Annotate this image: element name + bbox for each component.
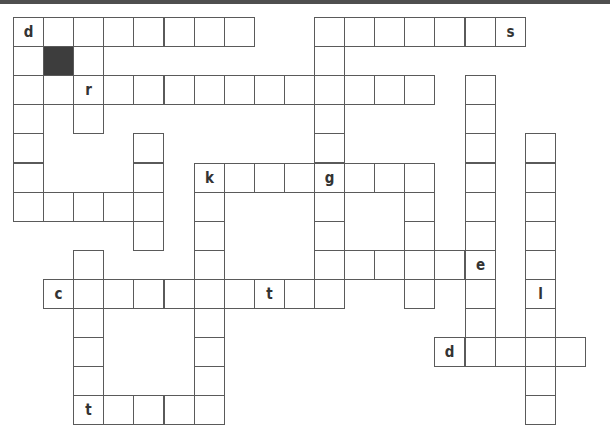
crossword-cell[interactable]	[465, 279, 496, 309]
crossword-cell[interactable]	[133, 221, 164, 251]
crossword-cell[interactable]	[73, 279, 104, 309]
crossword-cell[interactable]	[13, 192, 44, 222]
crossword-cell[interactable]	[374, 75, 405, 105]
crossword-cell[interactable]: l	[525, 279, 556, 309]
crossword-cell[interactable]	[13, 163, 44, 193]
crossword-cell[interactable]	[73, 17, 104, 47]
crossword-cell[interactable]	[164, 75, 195, 105]
crossword-cell[interactable]	[43, 17, 74, 47]
crossword-cell[interactable]	[314, 221, 345, 251]
crossword-cell[interactable]	[73, 337, 104, 367]
crossword-cell[interactable]	[164, 17, 195, 47]
crossword-cell[interactable]	[314, 104, 345, 134]
crossword-cell[interactable]: c	[43, 279, 74, 309]
crossword-cell[interactable]	[43, 192, 74, 222]
crossword-cell[interactable]	[465, 104, 496, 134]
crossword-cell[interactable]	[314, 250, 345, 280]
crossword-cell[interactable]	[73, 308, 104, 338]
crossword-cell[interactable]	[103, 75, 134, 105]
crossword-cell[interactable]	[404, 279, 435, 309]
crossword-cell[interactable]	[404, 250, 435, 280]
crossword-cell[interactable]	[224, 163, 255, 193]
crossword-cell[interactable]	[13, 104, 44, 134]
crossword-cell[interactable]	[194, 308, 225, 338]
crossword-cell[interactable]	[525, 221, 556, 251]
crossword-cell[interactable]	[525, 250, 556, 280]
crossword-cell[interactable]	[194, 221, 225, 251]
crossword-cell[interactable]	[344, 17, 375, 47]
crossword-cell[interactable]	[314, 75, 345, 105]
crossword-cell[interactable]	[254, 75, 285, 105]
crossword-cell[interactable]	[194, 192, 225, 222]
crossword-cell[interactable]	[465, 308, 496, 338]
crossword-cell[interactable]: k	[194, 163, 225, 193]
crossword-cell[interactable]: r	[73, 75, 104, 105]
crossword-cell[interactable]	[374, 163, 405, 193]
crossword-cell[interactable]: d	[13, 17, 44, 47]
crossword-cell[interactable]	[284, 279, 315, 309]
crossword-cell[interactable]	[103, 192, 134, 222]
crossword-cell[interactable]	[525, 163, 556, 193]
crossword-cell[interactable]	[73, 250, 104, 280]
crossword-cell[interactable]	[13, 133, 44, 163]
crossword-cell[interactable]	[404, 221, 435, 251]
crossword-cell[interactable]	[73, 104, 104, 134]
crossword-cell[interactable]	[344, 163, 375, 193]
crossword-cell[interactable]	[465, 75, 496, 105]
crossword-cell[interactable]	[314, 46, 345, 76]
crossword-cell[interactable]	[224, 75, 255, 105]
crossword-cell[interactable]	[194, 279, 225, 309]
crossword-cell[interactable]	[465, 163, 496, 193]
crossword-cell[interactable]	[465, 17, 496, 47]
crossword-cell[interactable]	[133, 192, 164, 222]
crossword-cell[interactable]	[133, 279, 164, 309]
crossword-cell[interactable]	[525, 308, 556, 338]
crossword-cell[interactable]	[194, 17, 225, 47]
crossword-cell[interactable]	[465, 192, 496, 222]
crossword-cell[interactable]: d	[434, 337, 465, 367]
crossword-cell[interactable]	[194, 75, 225, 105]
crossword-cell[interactable]	[103, 279, 134, 309]
crossword-cell[interactable]	[133, 17, 164, 47]
crossword-cell[interactable]	[525, 366, 556, 396]
crossword-cell[interactable]	[404, 75, 435, 105]
crossword-cell[interactable]	[314, 17, 345, 47]
crossword-cell[interactable]	[465, 337, 496, 367]
crossword-cell[interactable]	[73, 366, 104, 396]
crossword-cell[interactable]	[284, 163, 315, 193]
crossword-cell[interactable]	[495, 337, 526, 367]
crossword-cell[interactable]	[374, 250, 405, 280]
crossword-cell[interactable]	[525, 192, 556, 222]
crossword-cell[interactable]	[43, 75, 74, 105]
crossword-cell[interactable]	[434, 17, 465, 47]
crossword-cell[interactable]	[314, 279, 345, 309]
crossword-cell[interactable]	[344, 250, 375, 280]
crossword-cell[interactable]	[374, 17, 405, 47]
crossword-cell[interactable]	[314, 133, 345, 163]
crossword-cell[interactable]	[13, 75, 44, 105]
crossword-cell[interactable]: s	[495, 17, 526, 47]
crossword-cell[interactable]	[404, 192, 435, 222]
crossword-cell[interactable]	[194, 337, 225, 367]
crossword-cell[interactable]	[103, 395, 134, 425]
crossword-cell[interactable]	[194, 366, 225, 396]
crossword-cell[interactable]	[525, 337, 556, 367]
crossword-cell[interactable]	[133, 75, 164, 105]
crossword-cell[interactable]	[224, 279, 255, 309]
crossword-cell[interactable]	[465, 133, 496, 163]
crossword-cell[interactable]	[525, 133, 556, 163]
crossword-cell[interactable]	[404, 163, 435, 193]
crossword-cell[interactable]: g	[314, 163, 345, 193]
crossword-cell[interactable]	[284, 75, 315, 105]
crossword-cell[interactable]	[133, 395, 164, 425]
crossword-cell[interactable]	[164, 395, 195, 425]
crossword-cell[interactable]	[555, 337, 586, 367]
crossword-cell[interactable]	[224, 17, 255, 47]
crossword-cell[interactable]	[194, 395, 225, 425]
crossword-cell[interactable]: t	[254, 279, 285, 309]
crossword-cell[interactable]	[254, 163, 285, 193]
crossword-cell[interactable]	[13, 46, 44, 76]
crossword-cell[interactable]	[404, 17, 435, 47]
crossword-cell[interactable]: t	[73, 395, 104, 425]
crossword-cell[interactable]	[194, 250, 225, 280]
